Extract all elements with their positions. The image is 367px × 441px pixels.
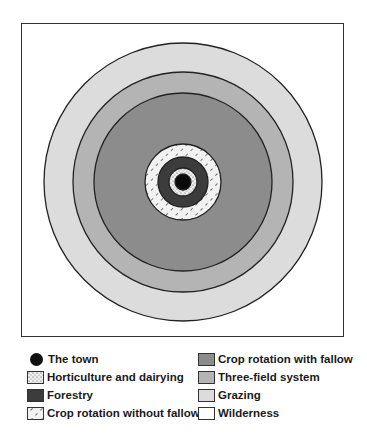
legend-label: Three-field system bbox=[218, 371, 320, 383]
dots-swatch-icon bbox=[27, 371, 44, 384]
legend-item-three-field: Three-field system bbox=[198, 368, 353, 386]
legend-right: Crop rotation with fallow Three-field sy… bbox=[198, 350, 353, 422]
legend-item-town: The town bbox=[27, 350, 200, 368]
legend-item-grazing: Grazing bbox=[198, 386, 353, 404]
legend-label: Crop rotation with fallow bbox=[218, 353, 353, 365]
legend-item-forestry: Forestry bbox=[27, 386, 200, 404]
legend-label: Forestry bbox=[47, 389, 93, 401]
legend-item-wilderness: Wilderness bbox=[198, 404, 353, 422]
legend-item-crop-with-fallow: Crop rotation with fallow bbox=[198, 350, 353, 368]
forestry-swatch-icon bbox=[27, 389, 44, 402]
town-dot-icon bbox=[30, 353, 43, 366]
hatch-swatch-icon bbox=[27, 407, 44, 420]
legend-item-horticulture: Horticulture and dairying bbox=[27, 368, 200, 386]
legend-label: Horticulture and dairying bbox=[47, 371, 184, 383]
the-town bbox=[175, 174, 191, 190]
three-field-swatch-icon bbox=[198, 371, 215, 384]
legend-item-crop-without-fallow: Crop rotation without fallow bbox=[27, 404, 200, 422]
legend-label: Wilderness bbox=[218, 407, 279, 419]
grazing-swatch-icon bbox=[198, 389, 215, 402]
legend-label: The town bbox=[48, 353, 98, 365]
legend-label: Grazing bbox=[218, 389, 261, 401]
wilderness-swatch-icon bbox=[198, 407, 215, 420]
legend-label: Crop rotation without fallow bbox=[47, 407, 200, 419]
crop-with-fallow-swatch-icon bbox=[198, 353, 215, 366]
legend-left: The town Horticulture and dairying Fores… bbox=[27, 350, 200, 422]
